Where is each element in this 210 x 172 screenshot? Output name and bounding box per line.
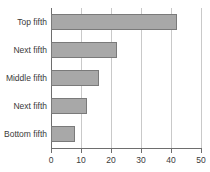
tick-mark-0 [51, 149, 52, 153]
bar[interactable] [51, 126, 75, 142]
x-tick-label: 30 [129, 155, 153, 165]
category-label: Bottom fifth [0, 129, 47, 139]
x-tick-label: 0 [39, 155, 63, 165]
category-label: Middle fifth [0, 73, 47, 83]
bar[interactable] [51, 14, 177, 30]
tick-mark-40 [171, 149, 172, 153]
tick-mark-30 [141, 149, 142, 153]
x-axis-line [51, 148, 202, 149]
bar-row [51, 120, 201, 148]
plot-area [51, 8, 201, 148]
x-tick-label: 40 [159, 155, 183, 165]
category-label: Next fifth [0, 45, 47, 55]
bar-row [51, 36, 201, 64]
x-tick-label: 20 [99, 155, 123, 165]
category-label: Next fifth [0, 101, 47, 111]
bar-row [51, 92, 201, 120]
bar-row [51, 8, 201, 36]
tick-mark-50 [201, 149, 202, 153]
category-label: Top fifth [0, 17, 47, 27]
x-tick-label: 50 [189, 155, 210, 165]
bar[interactable] [51, 42, 117, 58]
bar[interactable] [51, 70, 99, 86]
tick-mark-10 [81, 149, 82, 153]
bar[interactable] [51, 98, 87, 114]
gridline-50 [201, 8, 202, 148]
x-tick-label: 10 [69, 155, 93, 165]
bar-row [51, 64, 201, 92]
bar-chart: Top fifthNext fifthMiddle fifthNext fift… [0, 0, 210, 172]
tick-mark-20 [111, 149, 112, 153]
